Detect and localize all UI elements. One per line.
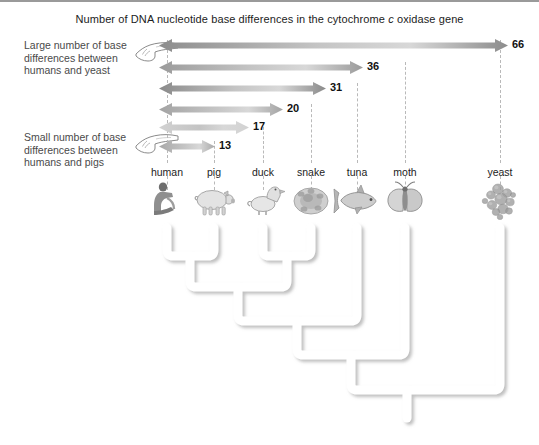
figure-root: Number of DNA nucleotide base difference…	[0, 0, 539, 445]
cladogram	[0, 0, 539, 445]
clade-mammals-birds-reptiles	[190, 256, 287, 287]
clade-plus-yeast	[351, 228, 500, 390]
clade-plus-tuna	[238, 228, 357, 321]
